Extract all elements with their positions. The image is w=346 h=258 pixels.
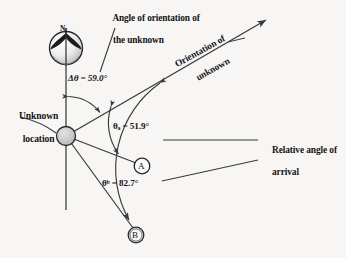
relative-angle-leader-lower [162,160,258,181]
theta-b-label: θᵇ = 82.7° [102,178,138,189]
compass-rose-icon [50,28,83,66]
relative-line-2: arrival [263,167,337,178]
delta-theta-label: Δθ = 59.0° [68,73,107,84]
node-a-letter: A [138,161,145,171]
relative-angle-of-arrival-label: Relative angle of arrival [263,134,337,201]
theta-a-label: θₐ = 51.9° [113,121,149,132]
relative-line-1: Relative angle of [272,145,337,155]
node-b-letter: B [132,230,138,240]
title-line-2: the unknown [113,35,164,45]
diagram-canvas: Angle of orientation of the unknown N Δθ… [0,0,346,258]
title-line-1: Angle of orientation of [112,13,199,23]
delta-theta-arc [69,97,101,113]
unknown-location-line-2: location [23,133,55,144]
unknown-location-label: Unknown location [3,99,65,156]
north-label: N [60,25,65,34]
unknown-location-line-1: Unknown [19,110,58,121]
